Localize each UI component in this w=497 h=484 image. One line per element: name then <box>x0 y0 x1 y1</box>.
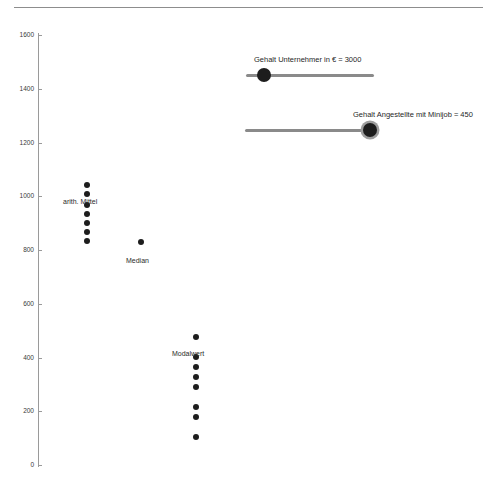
data-point <box>193 384 199 390</box>
y-axis-tick-label: 600 <box>0 300 34 308</box>
series-label-arith-mittel: arith. Mittel <box>63 198 97 206</box>
y-axis-tick-label: 400 <box>0 354 34 362</box>
y-axis-tick <box>38 250 42 251</box>
y-axis-tick <box>38 35 42 36</box>
y-axis-tick-label-text: 400 <box>0 354 34 362</box>
slider-gehalt-angestellte-minijob-label: Gehalt Angestellte mit Minijob = 450 <box>353 110 473 119</box>
data-point <box>193 334 199 340</box>
data-point <box>193 414 199 420</box>
y-axis-tick <box>38 358 42 359</box>
y-axis-tick <box>38 143 42 144</box>
y-axis-tick-label-text: 0 <box>0 461 34 469</box>
y-axis-tick-label-text: 200 <box>0 407 34 415</box>
data-point <box>84 182 90 188</box>
series-label-median: Median <box>126 257 149 265</box>
y-axis-tick-label-text: 1200 <box>0 139 34 147</box>
y-axis-tick <box>38 196 42 197</box>
y-axis-tick-label: 1000 <box>0 192 34 200</box>
data-point <box>84 220 90 226</box>
data-point <box>84 191 90 197</box>
data-point <box>193 434 199 440</box>
slider-gehalt-angestellte-minijob-thumb[interactable] <box>363 123 377 137</box>
y-axis-tick-label-text: 1600 <box>0 31 34 39</box>
slider-gehalt-angestellte-minijob-track[interactable] <box>245 129 373 132</box>
slider-gehalt-unternehmer[interactable]: Gehalt Unternehmer in € = 3000 <box>246 64 374 86</box>
data-point <box>84 229 90 235</box>
series-label-modalwert: Modalwert <box>172 350 204 358</box>
y-axis-tick <box>38 304 42 305</box>
y-axis-tick-label: 800 <box>0 246 34 254</box>
slider-gehalt-angestellte-minijob[interactable]: Gehalt Angestellte mit Minijob = 450 <box>245 119 373 141</box>
data-point <box>84 211 90 217</box>
top-divider <box>14 7 483 8</box>
y-axis-tick-label: 0 <box>0 461 34 469</box>
y-axis-tick-label: 1200 <box>0 139 34 147</box>
y-axis-tick-label-text: 1400 <box>0 85 34 93</box>
y-axis-tick <box>38 465 42 466</box>
chart-canvas: 02004006008001000120014001600 arith. Mit… <box>0 0 497 484</box>
data-point <box>193 404 199 410</box>
data-point <box>193 374 199 380</box>
y-axis-tick-label-text: 600 <box>0 300 34 308</box>
y-axis-tick-label: 1400 <box>0 85 34 93</box>
y-axis-tick-label: 1600 <box>0 31 34 39</box>
data-point <box>84 238 90 244</box>
data-point <box>193 364 199 370</box>
y-axis-tick-label-text: 1000 <box>0 192 34 200</box>
y-axis-tick-label: 200 <box>0 407 34 415</box>
y-axis-tick-label-text: 800 <box>0 246 34 254</box>
y-axis-tick <box>38 411 42 412</box>
data-point <box>138 239 144 245</box>
slider-gehalt-unternehmer-label: Gehalt Unternehmer in € = 3000 <box>254 55 361 64</box>
slider-gehalt-unternehmer-thumb[interactable] <box>257 68 271 82</box>
y-axis-tick <box>38 89 42 90</box>
